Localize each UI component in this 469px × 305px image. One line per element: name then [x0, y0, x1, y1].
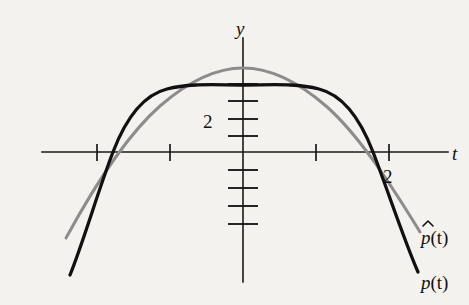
curve-label-p: p(t)	[419, 272, 448, 294]
p-hat-arg: (t)	[431, 227, 449, 249]
y-axis-label: y	[234, 18, 245, 39]
y-tick-label-2: 2	[203, 111, 213, 132]
curve-label-p-hat: p(t)	[419, 221, 448, 249]
plot-svg: y t 2 2 p(t) p(t)	[0, 0, 469, 305]
p-hat-base: p	[419, 227, 431, 248]
x-axis-label: t	[452, 143, 458, 164]
p-base: p	[419, 272, 431, 293]
plot-figure: y t 2 2 p(t) p(t)	[0, 0, 469, 305]
x-tick-label-2: 2	[383, 166, 393, 187]
p-arg: (t)	[431, 272, 449, 294]
svg-text:p(t): p(t)	[419, 227, 448, 249]
hat-accent-icon	[423, 221, 433, 226]
curve-p	[70, 85, 418, 275]
